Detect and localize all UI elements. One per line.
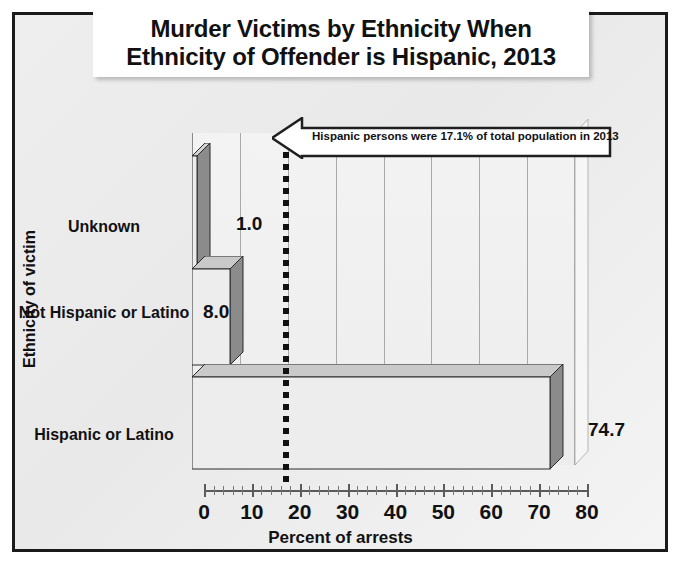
x-tick-minor bbox=[434, 486, 435, 495]
chart-title: Murder Victims by Ethnicity When Ethnici… bbox=[93, 9, 589, 77]
x-tick-minor bbox=[472, 486, 473, 495]
x-tick-major-10 bbox=[252, 484, 254, 497]
x-tick-minor bbox=[510, 486, 511, 495]
x-tick-major-0 bbox=[204, 484, 206, 497]
x-tick-minor bbox=[453, 486, 454, 495]
x-tick-major-80 bbox=[587, 484, 589, 497]
x-tick-minor bbox=[463, 486, 464, 495]
bar-value-not-hispanic: 8.0 bbox=[203, 301, 229, 323]
x-tick-minor bbox=[424, 486, 425, 495]
x-tick-minor bbox=[376, 486, 377, 495]
x-tick-minor bbox=[386, 486, 387, 495]
x-tick-minor bbox=[577, 486, 578, 495]
x-tick-minor bbox=[520, 486, 521, 495]
x-tick-minor bbox=[501, 486, 502, 495]
x-tick-minor bbox=[319, 486, 320, 495]
chart-title-line-2: Ethnicity of Offender is Hispanic, 2013 bbox=[126, 43, 556, 71]
x-tick-minor bbox=[367, 486, 368, 495]
x-tick-label-20: 20 bbox=[288, 500, 311, 524]
x-tick-label-30: 30 bbox=[336, 500, 359, 524]
x-tick-minor bbox=[549, 486, 550, 495]
bar-value-hispanic: 74.7 bbox=[588, 419, 625, 441]
x-tick-minor bbox=[328, 486, 329, 495]
x-tick-minor bbox=[214, 486, 215, 495]
callout-text: Hispanic persons were 17.1% of total pop… bbox=[312, 130, 619, 142]
x-tick-major-30 bbox=[348, 484, 350, 497]
x-tick-minor bbox=[338, 486, 339, 495]
x-tick-minor bbox=[271, 486, 272, 495]
ycat-label-not-hispanic: Not Hispanic or Latino bbox=[14, 303, 194, 323]
ycat-label-unknown: Unknown bbox=[14, 217, 194, 237]
y-axis-title: Ethnicity of victim bbox=[21, 209, 39, 389]
x-tick-major-60 bbox=[491, 484, 493, 497]
x-tick-minor bbox=[281, 486, 282, 495]
x-tick-major-40 bbox=[396, 484, 398, 497]
x-tick-minor bbox=[233, 486, 234, 495]
x-tick-label-50: 50 bbox=[432, 500, 455, 524]
x-tick-label-60: 60 bbox=[480, 500, 503, 524]
callout-annotation: Hispanic persons were 17.1% of total pop… bbox=[272, 117, 612, 159]
x-tick-label-70: 70 bbox=[527, 500, 550, 524]
x-tick-minor bbox=[558, 486, 559, 495]
x-tick-minor bbox=[568, 486, 569, 495]
bar-hispanic[interactable] bbox=[192, 364, 564, 480]
x-tick-minor bbox=[261, 486, 262, 495]
x-tick-minor bbox=[290, 486, 291, 495]
x-tick-minor bbox=[415, 486, 416, 495]
x-tick-minor bbox=[530, 486, 531, 495]
x-axis-title: Percent of arrests bbox=[0, 528, 681, 548]
ycat-label-hispanic: Hispanic or Latino bbox=[14, 425, 194, 445]
x-tick-minor bbox=[309, 486, 310, 495]
bar-value-unknown: 1.0 bbox=[236, 213, 262, 235]
x-tick-label-40: 40 bbox=[384, 500, 407, 524]
plot-area: 1.0 8.0 74.7 bbox=[192, 133, 575, 465]
x-tick-label-80: 80 bbox=[575, 500, 598, 524]
x-tick-minor bbox=[223, 486, 224, 495]
x-tick-minor bbox=[482, 486, 483, 495]
reference-line-17-1-percent bbox=[283, 152, 289, 488]
x-tick-label-10: 10 bbox=[240, 500, 263, 524]
chart-container: Murder Victims by Ethnicity When Ethnici… bbox=[0, 0, 681, 565]
x-tick-minor bbox=[357, 486, 358, 495]
plot-right-wall bbox=[575, 119, 591, 467]
chart-title-line-1: Murder Victims by Ethnicity When bbox=[150, 15, 531, 43]
x-tick-minor bbox=[405, 486, 406, 495]
x-tick-label-0: 0 bbox=[198, 500, 210, 524]
x-tick-minor bbox=[242, 486, 243, 495]
x-tick-major-70 bbox=[539, 484, 541, 497]
x-tick-major-20 bbox=[300, 484, 302, 497]
x-tick-major-50 bbox=[443, 484, 445, 497]
